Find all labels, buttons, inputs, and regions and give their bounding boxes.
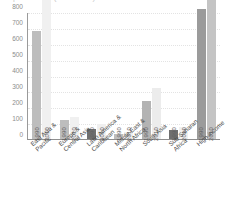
bar-2010[interactable] — [42, 0, 51, 139]
bar-chart: ...production (... units ...) 800 700 60… — [0, 0, 226, 209]
y-tick-label: 200 — [12, 99, 23, 106]
y-tick-label: 300 — [12, 83, 23, 90]
y-tick-label: 700 — [12, 19, 23, 26]
y-tick-label: 600 — [12, 35, 23, 42]
x-axis-category-labels: East Asia & Pacific Europe & Central Asi… — [27, 142, 220, 204]
y-tick-label: 400 — [12, 67, 23, 74]
y-axis-labels: 800 700 600 500 400 300 200 100 0 — [0, 6, 26, 140]
y-tick-label: 500 — [12, 51, 23, 58]
y-tick-label: 0 — [19, 131, 23, 138]
bar-wrap: 2010 — [42, 13, 51, 139]
bar-wrap: 1990 — [32, 13, 41, 139]
bar-group-east-asia-pacific: 1990 2010 — [32, 13, 51, 139]
y-tick-label: 100 — [12, 115, 23, 122]
chart-title: ...production (... units ...) — [6, 0, 221, 3]
y-tick-label: 800 — [12, 3, 23, 10]
bar-wrap: 2010 — [179, 13, 188, 139]
bar-1990[interactable] — [32, 31, 41, 139]
